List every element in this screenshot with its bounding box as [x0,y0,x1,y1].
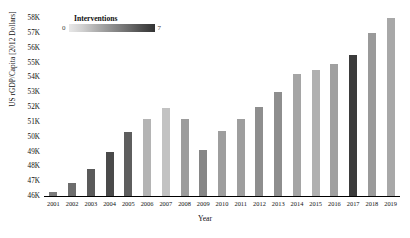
y-tick-label: 46K [28,192,40,200]
bar[interactable] [199,150,207,196]
bar[interactable] [293,74,301,196]
bar[interactable] [124,132,132,196]
x-tick-label: 2017 [344,200,363,207]
legend-colorbar-row: 0 7 [62,24,182,32]
bar-column[interactable] [325,18,344,196]
bar[interactable] [162,108,170,196]
bar-column[interactable] [175,18,194,196]
y-tick-label: 58K [28,14,40,22]
y-tick-label: 53K [28,88,40,96]
x-tick-label: 2006 [138,200,157,207]
bar[interactable] [181,119,189,196]
bar-column[interactable] [119,18,138,196]
bar-column[interactable] [250,18,269,196]
legend: Interventions 0 7 [62,14,182,32]
x-axis-line [44,196,400,197]
legend-title: Interventions [74,14,182,23]
bar[interactable] [387,18,395,196]
x-tick-label: 2005 [119,200,138,207]
x-tick-label: 2007 [156,200,175,207]
x-tick-label: 2010 [213,200,232,207]
y-axis-title: US rGDP/Capita [2012 Dollars] [9,0,17,119]
bar-column[interactable] [306,18,325,196]
y-tick-label: 49K [28,148,40,156]
x-tick-label: 2013 [269,200,288,207]
bar[interactable] [218,131,226,196]
x-tick-label: 2002 [63,200,82,207]
x-tick-label: 2016 [325,200,344,207]
bar-column[interactable] [344,18,363,196]
x-tick-label: 2011 [231,200,250,207]
x-tick-label: 2009 [194,200,213,207]
x-tick-label: 2015 [306,200,325,207]
chart-root: US rGDP/Capita [2012 Dollars] 58K57K56K5… [0,0,410,238]
y-tick-label: 48K [28,162,40,170]
bar[interactable] [312,70,320,196]
y-tick-label: 52K [28,103,40,111]
y-tick-label: 54K [28,73,40,81]
bar-column[interactable] [213,18,232,196]
y-tick-label: 50K [28,133,40,141]
x-tick-label: 2019 [381,200,400,207]
bar-column[interactable] [100,18,119,196]
bar-column[interactable] [63,18,82,196]
bar[interactable] [143,119,151,196]
bar-column[interactable] [231,18,250,196]
y-tick-label: 57K [28,29,40,37]
bar-column[interactable] [363,18,382,196]
bar-column[interactable] [288,18,307,196]
legend-max-label: 7 [158,24,162,32]
bar-column[interactable] [194,18,213,196]
x-axis-title: Year [0,214,410,223]
bar-column[interactable] [156,18,175,196]
y-tick-label: 55K [28,59,40,67]
x-tick-label: 2003 [81,200,100,207]
bar[interactable] [237,119,245,196]
x-tick-label: 2012 [250,200,269,207]
y-tick-label: 51K [28,118,40,126]
bar[interactable] [255,107,263,196]
bar[interactable] [368,33,376,196]
bar[interactable] [274,92,282,196]
y-tick-label: 56K [28,44,40,52]
plot-area: 58K57K56K55K54K53K52K51K50K49K48K47K46K … [44,18,400,196]
bar-column[interactable] [381,18,400,196]
y-tick-label: 47K [28,177,40,185]
bar-column[interactable] [138,18,157,196]
legend-min-label: 0 [62,24,66,32]
x-tick-label: 2008 [175,200,194,207]
x-tick-label: 2001 [44,200,63,207]
x-tick-label: 2004 [100,200,119,207]
bar-column[interactable] [269,18,288,196]
bar[interactable] [68,183,76,196]
bar[interactable] [349,55,357,196]
bar-column[interactable] [81,18,100,196]
bar[interactable] [330,64,338,196]
x-tick-label: 2014 [288,200,307,207]
bar[interactable] [87,169,95,196]
bar-series [44,18,400,196]
x-tick-label: 2018 [363,200,382,207]
bar[interactable] [106,152,114,197]
legend-colorbar [69,24,155,32]
bar-column[interactable] [44,18,63,196]
